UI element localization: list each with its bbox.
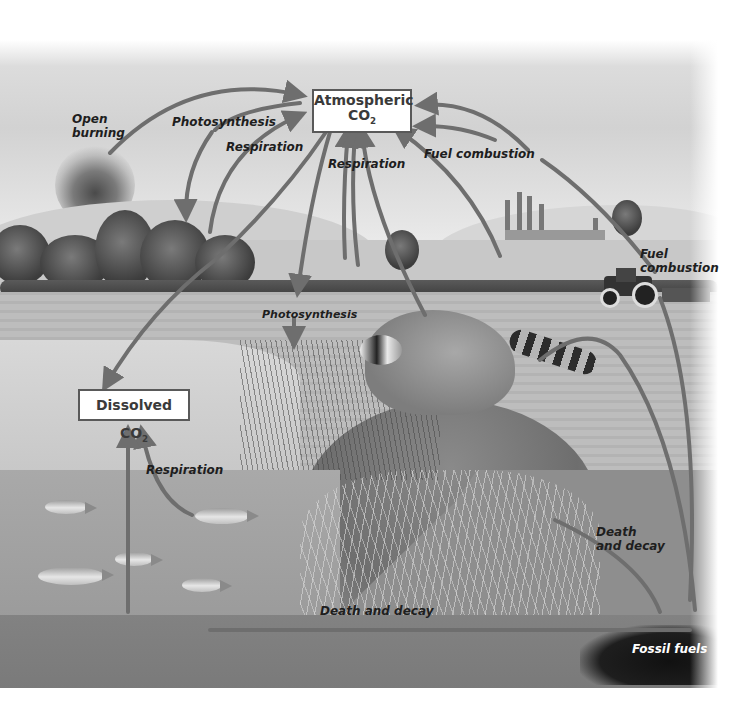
label-photosynthesis-top: Photosynthesis — [172, 115, 276, 129]
label-fuel-combustion-top: Fuel combustion — [424, 147, 535, 161]
underwater — [0, 470, 340, 630]
fish-icon — [182, 578, 222, 592]
label-fuel-combustion-tractor: Fuel combustion — [640, 247, 719, 276]
edge-fade — [690, 40, 718, 688]
label-death-decay-bottom: Death and decay — [320, 604, 433, 618]
label-death-decay-right: Death and decay — [596, 525, 665, 554]
raccoon-face — [360, 335, 402, 365]
label-fossil-fuels: Fossil fuels — [632, 642, 707, 656]
atmospheric-co2-line2: CO2 — [314, 108, 410, 126]
label-open-burning: Open burning — [72, 112, 125, 141]
fish-icon — [45, 500, 87, 514]
label-respiration-left: Respiration — [226, 140, 303, 154]
fish-icon — [38, 567, 104, 585]
atmospheric-co2-line1: Atmospheric — [314, 93, 410, 108]
label-respiration-water: Respiration — [146, 463, 223, 477]
label-photosynthesis-pond: Photosynthesis — [262, 308, 357, 321]
dissolved-co2-box: Dissolved CO2 — [78, 389, 190, 421]
fish-icon — [195, 508, 249, 524]
atmospheric-co2-box: Atmospheric CO2 — [312, 89, 412, 133]
fish-icon — [115, 552, 153, 566]
label-respiration-center: Respiration — [328, 157, 405, 171]
